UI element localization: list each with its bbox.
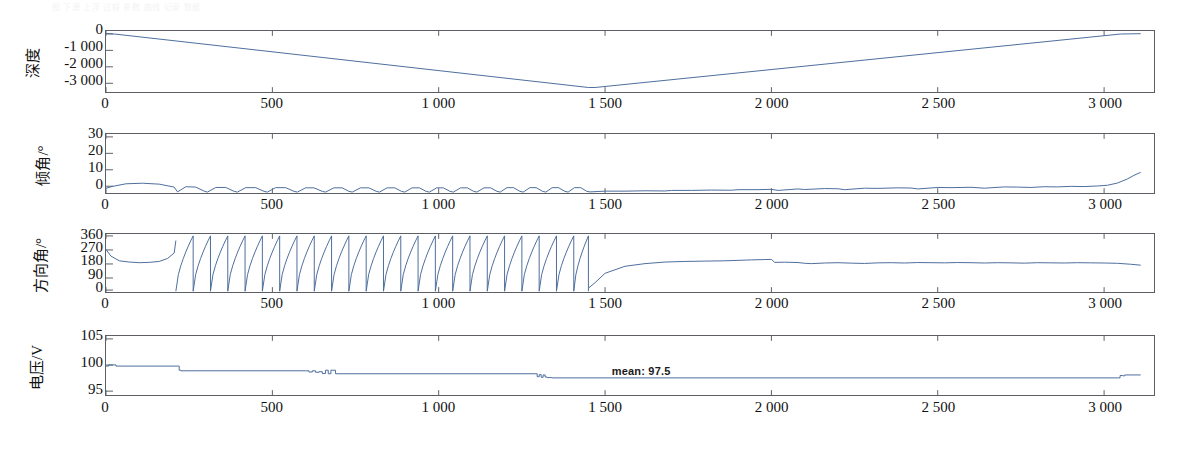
panel-depth-svg <box>106 31 1154 92</box>
ytick-label: -3 000 <box>64 73 103 88</box>
panel-depth-ylabel: 深度 <box>21 26 42 100</box>
panel-heading-yticks-marks <box>106 236 113 290</box>
panel-depth-yticks-marks <box>106 34 113 83</box>
ytick-label: 20 <box>88 143 103 158</box>
panel-tilt-yticks-marks <box>106 137 113 186</box>
xtick-label: 500 <box>260 400 283 415</box>
xtick-label: 2 500 <box>921 197 955 212</box>
ytick-label: -1 000 <box>64 39 103 54</box>
ytick-label: 10 <box>88 160 103 175</box>
xtick-label: 3 000 <box>1088 197 1122 212</box>
xtick-label: 2 500 <box>921 296 955 311</box>
panel-tilt-svg <box>106 134 1154 193</box>
xtick-label: 3 000 <box>1088 296 1122 311</box>
ytick-label: 30 <box>88 126 103 141</box>
xtick-label: 1 500 <box>588 197 622 212</box>
ytick-label: 0 <box>96 22 104 37</box>
ytick-label: 105 <box>81 328 104 343</box>
panel-tilt-plot-area <box>105 133 1155 194</box>
panel-tilt-xticks <box>106 134 1104 193</box>
xtick-label: 0 <box>101 96 109 111</box>
xtick-label: 2 500 <box>921 400 955 415</box>
xtick-label: 1 000 <box>421 296 455 311</box>
xtick-label: 2 000 <box>755 400 789 415</box>
panel-voltage-ylabel: 电压/V <box>25 319 46 417</box>
panel-depth-plot-area <box>105 30 1155 93</box>
panel-heading-plot-area <box>105 233 1155 293</box>
ytick-label: 95 <box>88 382 103 397</box>
xtick-label: 2 500 <box>921 96 955 111</box>
xtick-label: 3 000 <box>1088 400 1122 415</box>
xtick-label: 2 000 <box>755 197 789 212</box>
xtick-label: 1 000 <box>421 400 455 415</box>
panel-depth-xticks <box>106 31 1104 92</box>
xtick-label: 2 000 <box>755 296 789 311</box>
xtick-label: 500 <box>260 197 283 212</box>
xtick-label: 0 <box>101 197 109 212</box>
xtick-label: 3 000 <box>1088 96 1122 111</box>
voltage-mean-annotation: mean: 97.5 <box>612 365 671 377</box>
panel-voltage-xticks <box>106 336 1104 395</box>
xtick-label: 2 000 <box>755 96 789 111</box>
xtick-label: 500 <box>260 96 283 111</box>
xtick-label: 1 500 <box>588 296 622 311</box>
ytick-label: 100 <box>81 355 104 370</box>
ytick-label: -2 000 <box>64 56 103 71</box>
figure-canvas: 图 下潜 上浮 过程 参数 曲线 记录 数据 深度 0 -1 000 -2 00… <box>0 0 1186 455</box>
xtick-label: 1 000 <box>421 197 455 212</box>
panel-heading-trace <box>106 236 1141 291</box>
xtick-label: 1 000 <box>421 96 455 111</box>
xtick-label: 0 <box>101 296 109 311</box>
xtick-label: 1 500 <box>588 96 622 111</box>
ytick-label: 0 <box>96 280 104 295</box>
cropped-caption-text: 图 下潜 上浮 过程 参数 曲线 记录 数据 <box>52 1 201 12</box>
panel-depth-trace <box>106 34 1141 88</box>
xtick-label: 1 500 <box>588 400 622 415</box>
xtick-label: 0 <box>101 400 109 415</box>
panel-heading-svg <box>106 234 1154 292</box>
ytick-label: 0 <box>96 177 104 192</box>
panel-tilt-trace <box>106 172 1141 192</box>
panel-tilt-ylabel: 倾角/° <box>31 118 52 214</box>
panel-heading-ylabel: 方向角/° <box>29 204 50 328</box>
xtick-label: 500 <box>260 296 283 311</box>
